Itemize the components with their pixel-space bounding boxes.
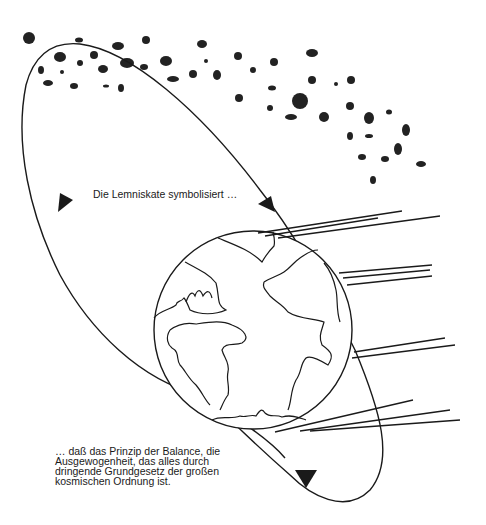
speed-line [258, 211, 402, 233]
star-dots [23, 32, 426, 184]
star-dot [416, 161, 426, 167]
globe-icon [154, 231, 352, 429]
arrowhead-up-left-icon [58, 193, 73, 212]
star-dot [75, 38, 83, 43]
star-dot [43, 80, 53, 86]
star-dot [319, 112, 329, 122]
star-dot [118, 84, 124, 92]
speed-line [354, 338, 445, 352]
star-dot [234, 52, 242, 60]
star-dot [98, 65, 108, 73]
star-dot [386, 110, 392, 115]
star-dot [235, 94, 243, 102]
caption-bottom-line: kosmischen Ordnung ist. [55, 476, 255, 486]
star-dot [112, 42, 124, 50]
star-dot [394, 143, 402, 155]
star-dot [77, 60, 83, 66]
star-dot [334, 82, 338, 86]
star-dot [54, 52, 66, 62]
star-dot [160, 56, 172, 66]
speed-line [310, 420, 460, 431]
star-dot [347, 76, 355, 84]
star-dot [23, 32, 35, 44]
speed-line [278, 216, 440, 238]
star-dot [402, 124, 410, 136]
star-dot [270, 58, 278, 66]
star-dot [250, 67, 256, 73]
star-dot [213, 70, 221, 80]
star-dot [90, 51, 98, 59]
caption-bottom: … daß das Prinzip der Balance, die Ausge… [55, 446, 255, 486]
star-dot [285, 114, 297, 120]
star-dot [70, 83, 78, 89]
caption-top: Die Lemniskate symbolisiert … [93, 188, 237, 200]
star-dot [381, 156, 389, 162]
star-dot [358, 154, 366, 160]
star-dot [204, 59, 208, 63]
speed-line [347, 276, 432, 285]
star-dot [268, 86, 276, 91]
star-dot [347, 132, 353, 140]
star-dot [308, 76, 316, 84]
star-dot [38, 66, 44, 74]
speed-line [352, 345, 455, 358]
star-dot [142, 36, 150, 44]
star-dot [306, 49, 318, 57]
star-dot [189, 70, 197, 78]
speed-line [339, 265, 432, 273]
star-dot [267, 105, 273, 111]
star-dot [140, 64, 148, 70]
star-dot [120, 58, 134, 68]
star-dot [370, 176, 376, 184]
star-dot [292, 93, 308, 109]
star-dot [60, 70, 64, 74]
star-dot [103, 85, 109, 88]
star-dot [346, 102, 354, 110]
star-dot [365, 134, 373, 138]
star-dot [197, 40, 207, 48]
arrowhead-bottom-icon [295, 470, 317, 488]
star-dot [364, 112, 374, 124]
illustration-canvas: Die Lemniskate symbolisiert … … daß das … [0, 0, 486, 525]
star-dot [167, 76, 179, 82]
